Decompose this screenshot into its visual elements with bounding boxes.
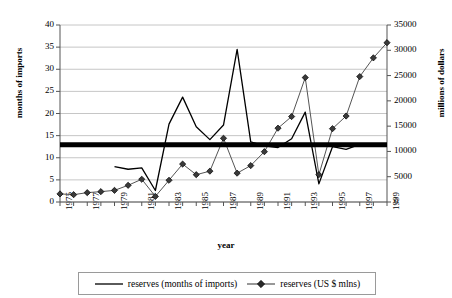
gridlines xyxy=(60,25,387,202)
legend-item-months: reserves (months of imports) xyxy=(94,279,238,289)
legend-label-dollars: reserves (US $ mlns) xyxy=(280,279,360,289)
legend-line-swatch-icon xyxy=(94,279,124,289)
data-series-layer xyxy=(57,40,390,200)
chart-container: months of imports millions of dollars ye… xyxy=(0,0,452,298)
legend-diamond-swatch-icon xyxy=(246,279,276,289)
legend-item-dollars: reserves (US $ mlns) xyxy=(246,279,360,289)
legend-label-months: reserves (months of imports) xyxy=(128,279,238,289)
chart-legend: reserves (months of imports) reserves (U… xyxy=(78,272,376,295)
tick-marks xyxy=(56,25,391,206)
plot-area xyxy=(0,0,452,298)
